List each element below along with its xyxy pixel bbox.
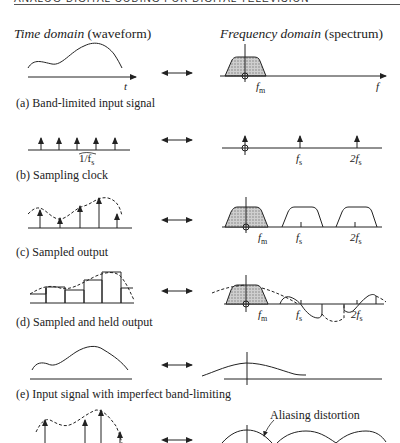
two-fs-label-d: 2fs — [351, 308, 363, 323]
panel-a-freq — [220, 44, 386, 82]
fs-label-c: fs — [296, 231, 302, 246]
panel-f-time — [36, 410, 122, 443]
fs-label-d: fs — [296, 308, 302, 323]
caption-a: (a) Band-limited input signal — [16, 96, 155, 111]
fs-label-b: fs — [296, 152, 302, 167]
fm-label-d: fm — [258, 308, 267, 323]
sampling-diagram — [0, 0, 400, 443]
panel-c-freq — [222, 197, 382, 233]
panel-a-time — [28, 43, 136, 77]
time-axis-label: t — [124, 80, 127, 92]
aliasing-distortion-annotation: Aliasing distortion — [270, 408, 360, 423]
fm-label-a: fm — [256, 80, 265, 95]
panel-e-time — [30, 346, 132, 379]
panel-f-freq — [222, 420, 386, 443]
caption-c: (c) Sampled output — [16, 245, 108, 260]
two-fs-label-b: 2fs — [350, 152, 362, 167]
caption-e: (e) Input signal with imperfect band-lim… — [16, 387, 231, 402]
caption-b: (b) Sampling clock — [16, 168, 108, 183]
caption-d: (d) Sampled and held output — [16, 315, 153, 330]
panel-e-freq — [202, 352, 382, 385]
frequency-axis-label: f — [376, 80, 379, 92]
two-fs-label-c: 2fs — [350, 231, 362, 246]
panel-c-time — [28, 198, 132, 228]
fm-label-c: fm — [258, 231, 267, 246]
sampling-period-label: 1/fs — [79, 152, 94, 167]
panel-d-time — [30, 272, 134, 303]
